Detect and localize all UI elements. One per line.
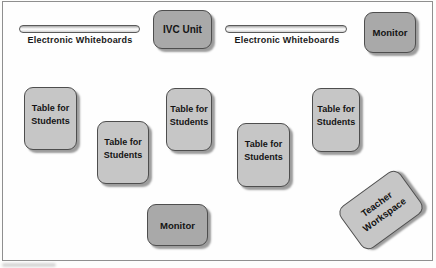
table-for-students-box-2: Table for Students: [97, 121, 149, 184]
table-for-students-box-5: Table for Students: [312, 88, 360, 152]
whiteboard-right-shape: [225, 25, 347, 33]
ivc-unit-box: IVC Unit: [153, 10, 212, 49]
whiteboard-left-label: Electronic Whiteboards: [12, 35, 148, 45]
table-for-students-box-4: Table for Students: [237, 123, 290, 187]
monitor-bottom-label: Monitor: [160, 220, 195, 231]
table-for-students-box-3: Table for Students: [166, 88, 212, 151]
table-label-line2: Students: [170, 116, 209, 129]
table-label-line2: Students: [104, 149, 143, 162]
whiteboard-left-shape: [19, 25, 140, 33]
table-label-line1: Table for: [170, 103, 207, 116]
cropped-caption-artifact: [2, 263, 56, 267]
table-label-line1: Table for: [104, 136, 141, 149]
table-label-line2: Students: [31, 115, 70, 128]
monitor-top-label: Monitor: [373, 27, 408, 38]
table-for-students-box-1: Table for Students: [24, 87, 77, 150]
classroom-layout-diagram: Electronic Whiteboards IVC Unit Electron…: [0, 0, 436, 268]
ivc-unit-label: IVC Unit: [163, 24, 202, 35]
table-label-line2: Students: [244, 151, 283, 164]
monitor-bottom-box: Monitor: [147, 204, 208, 246]
whiteboard-right-label: Electronic Whiteboards: [219, 35, 355, 45]
table-label-line1: Table for: [245, 138, 282, 151]
monitor-top-box: Monitor: [364, 12, 416, 53]
table-label-line1: Table for: [317, 103, 354, 116]
table-label-line1: Table for: [32, 102, 69, 115]
table-label-line2: Students: [317, 116, 356, 129]
